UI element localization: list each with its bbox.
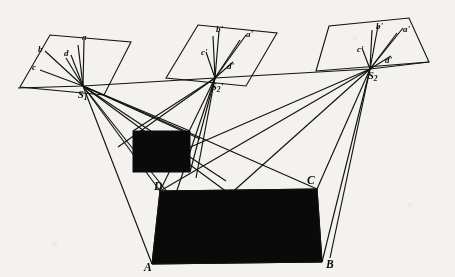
s2-to-D (160, 69, 370, 191)
plane-middle-outline (166, 25, 277, 86)
plane-right-outline (316, 18, 429, 71)
s2-to-B2 (330, 69, 370, 258)
ray-ap2-s2 (370, 33, 397, 69)
label-plane3-c: c' (357, 45, 364, 54)
label-plane2-c: c' (201, 48, 208, 57)
label-plane1-b: b (38, 45, 43, 54)
rays-plane-middle (206, 31, 246, 78)
label-station-s2: S2 (368, 71, 378, 83)
lower-dark-quad (152, 189, 322, 264)
label-station-s2p: S2' (211, 82, 224, 94)
image-plane-middle (166, 25, 277, 86)
label-plane3-a: a' (403, 25, 410, 34)
rays-plane-left (40, 40, 84, 86)
label-plane2-a: a' (246, 30, 253, 39)
ray-bp-s2p (215, 31, 219, 78)
object-surfaces (133, 131, 322, 264)
station-s1-subscript: 1 (84, 93, 88, 102)
label-plane3-d: d' (385, 56, 392, 65)
label-plane1-c: c (32, 63, 36, 72)
ray-c-s1 (40, 70, 83, 86)
figure-canvas: b c d a b' c' a' d' b' c' a' d' S1 S2' S… (0, 0, 455, 277)
s2-to-C (317, 69, 370, 189)
s2-to-B (322, 69, 370, 262)
label-plane1-d: d (64, 49, 69, 58)
label-corner-A: A (144, 262, 152, 274)
label-corner-B: B (326, 259, 334, 271)
station-s2p-prime: ' (221, 81, 224, 92)
label-plane1-a: a (82, 33, 87, 42)
label-station-s1: S1 (78, 90, 88, 102)
ray-a-s1 (83, 40, 84, 86)
ray-ap2-s2p (215, 40, 240, 78)
label-corner-C: C (307, 175, 315, 187)
label-plane2-b: b' (216, 25, 223, 34)
station-s2-subscript: 2 (374, 74, 378, 83)
upper-dark-quad (133, 131, 190, 172)
projection-diagram-svg (0, 0, 455, 277)
label-plane3-b: b' (376, 22, 383, 31)
label-corner-D: D (154, 181, 162, 193)
label-plane2-d: d' (227, 62, 234, 71)
rays-plane-right (362, 26, 403, 69)
image-plane-right (316, 18, 429, 71)
